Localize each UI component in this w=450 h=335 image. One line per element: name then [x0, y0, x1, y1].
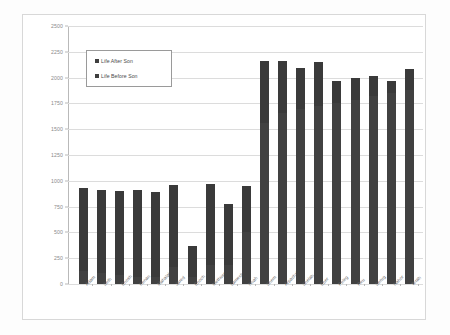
x-axis-tick-mark	[400, 284, 401, 286]
y-axis-tick-label: 1750	[51, 100, 63, 106]
x-axis-tick-mark	[274, 284, 275, 286]
bar-segment-life-after-son[interactable]	[151, 192, 160, 278]
y-axis-tick-label: 2500	[51, 23, 63, 29]
bar-group[interactable]: Shelah	[296, 26, 305, 284]
bar-segment-life-before-son[interactable]	[278, 113, 287, 284]
x-axis-tick-mark	[255, 284, 256, 286]
x-axis-tick-mark	[165, 284, 166, 286]
bar-group[interactable]: Enoch	[188, 26, 197, 284]
bar-segment-life-after-son[interactable]	[115, 191, 124, 275]
y-axis-tick-label: 500	[54, 229, 63, 235]
bar-group[interactable]: Methuselah	[206, 26, 215, 284]
y-axis-tick-label: 0	[60, 281, 63, 287]
y-axis-tick-label: 2250	[51, 49, 63, 55]
bar-segment-life-after-son[interactable]	[351, 78, 360, 99]
x-axis-tick-mark	[292, 284, 293, 286]
bar-segment-life-after-son[interactable]	[224, 204, 233, 265]
bar-group[interactable]: Lamech	[224, 26, 233, 284]
legend-swatch-icon	[95, 74, 99, 78]
x-axis-tick-mark	[310, 284, 311, 286]
y-axis-tick-label: 1250	[51, 152, 63, 158]
bar-segment-life-after-son[interactable]	[97, 190, 106, 273]
legend-swatch-icon	[95, 59, 99, 63]
bar-group[interactable]: Reu	[351, 26, 360, 284]
x-axis-tick-mark	[328, 284, 329, 286]
bar-segment-life-before-son[interactable]	[351, 100, 360, 284]
bar-segment-life-after-son[interactable]	[387, 81, 396, 93]
bar-segment-life-after-son[interactable]	[314, 62, 323, 106]
screenshot-canvas: 02505007501000125015001750200022502500 A…	[0, 0, 450, 335]
x-axis-tick-mark	[237, 284, 238, 286]
x-axis-tick-mark	[346, 284, 347, 286]
y-axis-tick-label: 250	[54, 255, 63, 261]
bar-segment-life-after-son[interactable]	[332, 81, 341, 103]
bar-segment-life-after-son[interactable]	[296, 68, 305, 110]
x-axis-tick-mark	[111, 284, 112, 286]
chart-object-frame[interactable]: 02505007501000125015001750200022502500 A…	[22, 14, 426, 320]
bar-group[interactable]: Nahor	[387, 26, 396, 284]
x-axis-tick-mark	[364, 284, 365, 286]
y-axis-tick-label: 2000	[51, 75, 63, 81]
bar-group[interactable]: Terah	[405, 26, 414, 284]
y-axis-tick-label: 750	[54, 204, 63, 210]
bar-segment-life-before-son[interactable]	[260, 123, 269, 284]
bar-segment-life-before-son[interactable]	[296, 109, 305, 284]
x-axis-tick-mark	[201, 284, 202, 286]
bar-group[interactable]: Serug	[369, 26, 378, 284]
bar-segment-life-after-son[interactable]	[188, 246, 197, 277]
legend-label-life-before-son: Life Before Son	[101, 73, 138, 79]
y-axis-tick-label: 1000	[51, 178, 63, 184]
bar-segment-life-before-son[interactable]	[387, 93, 396, 284]
x-axis-tick-mark	[382, 284, 383, 286]
legend-label-life-after-son: Life After Son	[101, 58, 133, 64]
bar-group[interactable]: Peleg	[332, 26, 341, 284]
bar-group[interactable]: Arpachshad	[278, 26, 287, 284]
bar-segment-life-after-son[interactable]	[369, 76, 378, 97]
bar-segment-life-after-son[interactable]	[169, 185, 178, 268]
bar-group[interactable]: Noah	[242, 26, 251, 284]
x-axis-tick-mark	[147, 284, 148, 286]
x-axis-tick-mark	[92, 284, 93, 286]
bar-segment-life-before-son[interactable]	[314, 106, 323, 284]
bar-segment-life-after-son[interactable]	[405, 69, 414, 90]
x-axis-tick-mark	[219, 284, 220, 286]
bar-segment-life-after-son[interactable]	[260, 61, 269, 123]
bar-segment-life-before-son[interactable]	[242, 232, 251, 284]
bar-segment-life-after-son[interactable]	[79, 188, 88, 271]
x-axis-tick-mark	[129, 284, 130, 286]
bar-segment-life-after-son[interactable]	[206, 184, 215, 265]
bar-segment-life-before-son[interactable]	[369, 96, 378, 284]
bar-segment-life-after-son[interactable]	[133, 190, 142, 277]
bar-group[interactable]: Eber	[314, 26, 323, 284]
y-axis-tick-label: 1500	[51, 126, 63, 132]
legend-item-life-before-son[interactable]: Life Before Son	[95, 72, 165, 79]
x-axis-tick-mark	[418, 284, 419, 286]
bar-segment-life-after-son[interactable]	[278, 61, 287, 113]
bar-segment-life-before-son[interactable]	[332, 103, 341, 284]
x-axis-tick-mark	[183, 284, 184, 286]
bar-group[interactable]: Shem	[260, 26, 269, 284]
legend-item-life-after-son[interactable]: Life After Son	[95, 57, 165, 64]
chart-legend[interactable]: Life After Son Life Before Son	[86, 50, 172, 87]
bar-segment-life-after-son[interactable]	[242, 186, 251, 232]
bar-segment-life-before-son[interactable]	[405, 90, 414, 284]
